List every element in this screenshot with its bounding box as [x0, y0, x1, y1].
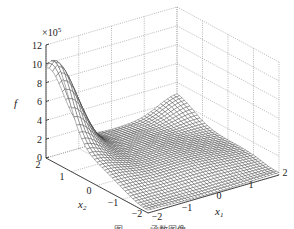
x1-tick-neg1: −1 [182, 202, 193, 213]
surface-plot: 0 2 4 6 8 10 12 ×105 f 2 1 0 −1 −2 x2 −2… [0, 0, 294, 229]
z-tick-6: 6 [37, 96, 42, 107]
z-tick-8: 8 [37, 78, 42, 89]
x1-tick-2: 2 [283, 167, 288, 178]
z-tick-4: 4 [37, 115, 42, 126]
z-tick-12: 12 [32, 40, 42, 51]
x1-axis-label: x1 [214, 205, 223, 219]
x1-tick-0: 0 [217, 190, 222, 201]
surface-mesh [46, 60, 279, 210]
x2-tick-2: 2 [36, 159, 41, 170]
x2-tick-neg2: −2 [132, 208, 143, 219]
svg-text:×105: ×105 [42, 26, 62, 38]
x1-tick-1: 1 [249, 179, 254, 190]
x2-axis-label: x2 [77, 198, 87, 212]
x1-tick-neg2: −2 [152, 211, 163, 222]
z-axis-ticks: 0 2 4 6 8 10 12 [32, 40, 42, 163]
z-tick-10: 10 [32, 59, 42, 70]
figure-caption: 图 … … 函数图像 [114, 224, 186, 229]
x2-tick-1: 1 [60, 171, 65, 182]
x2-tick-0: 0 [87, 185, 92, 196]
z-multiplier: ×105 [42, 26, 62, 38]
x2-tick-neg1: −1 [108, 197, 119, 208]
z-axis-label: f [14, 97, 19, 109]
z-tick-2: 2 [37, 134, 42, 145]
